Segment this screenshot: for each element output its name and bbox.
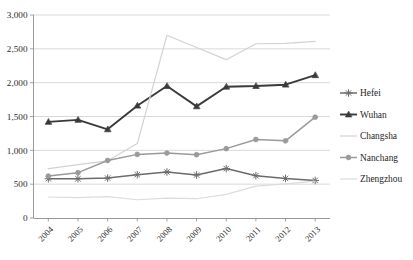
x-tick-labels-group: 2004200520062007200820092010201120122013 — [36, 224, 322, 244]
data-point-marker — [164, 169, 171, 176]
legend-label: Changsha — [360, 131, 398, 141]
data-point-marker — [312, 72, 318, 78]
data-point-marker — [75, 175, 82, 182]
series-line-wuhan — [48, 75, 315, 129]
legend-item-nanchang[interactable]: Nanchang — [340, 153, 398, 163]
x-tick-label: 2008 — [155, 224, 174, 243]
legend-item-zhengzhou[interactable]: Zhengzhou — [340, 174, 402, 184]
y-tick-label: 500 — [14, 179, 28, 189]
data-point-marker — [252, 172, 259, 179]
data-point-marker — [134, 171, 141, 178]
data-point-marker — [345, 90, 352, 97]
legend: HefeiWuhanChangshaNanchangZhengzhou — [340, 88, 402, 184]
data-point-marker — [223, 165, 230, 172]
y-tick-labels-group: 05001,0001,5002,0002,5003,000 — [7, 10, 28, 223]
series-nanchang — [46, 115, 318, 179]
data-point-marker — [313, 115, 318, 120]
data-point-marker — [104, 175, 111, 182]
y-tick-label: 1,000 — [7, 146, 28, 156]
legend-item-hefei[interactable]: Hefei — [340, 88, 381, 98]
data-point-marker — [253, 137, 258, 142]
series-group — [45, 35, 319, 199]
series-line-changsha — [48, 35, 315, 168]
series-changsha — [48, 35, 315, 168]
chart-canvas: 05001,0001,5002,0002,5003,000 2004200520… — [0, 0, 413, 260]
gridlines-group — [34, 15, 331, 184]
data-point-marker — [165, 151, 170, 156]
legend-label: Zhengzhou — [360, 174, 402, 184]
data-point-marker — [164, 83, 170, 89]
x-tick-label: 2013 — [303, 224, 322, 243]
y-tick-marks-group — [30, 15, 34, 218]
y-tick-label: 2,500 — [7, 44, 28, 54]
y-tick-label: 1,500 — [7, 112, 28, 122]
data-point-marker — [282, 175, 289, 182]
y-tick-label: 2,000 — [7, 78, 28, 88]
x-tick-label: 2011 — [244, 224, 263, 243]
legend-item-wuhan[interactable]: Wuhan — [340, 110, 387, 120]
x-tick-label: 2004 — [36, 224, 56, 244]
data-point-marker — [46, 174, 51, 179]
series-line-nanchang — [48, 117, 315, 176]
line-chart: 05001,0001,5002,0002,5003,000 2004200520… — [0, 0, 413, 260]
data-point-marker — [76, 170, 81, 175]
legend-label: Hefei — [360, 88, 381, 98]
x-tick-label: 2006 — [95, 224, 115, 244]
legend-label: Nanchang — [360, 153, 398, 163]
x-tick-label: 2010 — [214, 224, 233, 243]
x-tick-label: 2005 — [66, 224, 85, 243]
data-point-marker — [193, 172, 200, 179]
legend-item-changsha[interactable]: Changsha — [340, 131, 398, 141]
y-tick-label: 0 — [23, 213, 28, 223]
x-tick-label: 2009 — [184, 224, 203, 243]
series-hefei — [45, 165, 319, 184]
data-point-marker — [224, 146, 229, 151]
series-wuhan — [45, 72, 318, 132]
data-point-marker — [135, 152, 140, 157]
data-point-marker — [105, 158, 110, 163]
data-point-marker — [312, 177, 319, 184]
x-tick-label: 2012 — [273, 224, 292, 243]
x-tick-label: 2007 — [125, 224, 145, 244]
series-line-hefei — [48, 169, 315, 181]
data-point-marker — [346, 155, 351, 160]
data-point-marker — [194, 152, 199, 157]
y-tick-label: 3,000 — [7, 10, 28, 20]
legend-label: Wuhan — [360, 110, 387, 120]
data-point-marker — [283, 138, 288, 143]
